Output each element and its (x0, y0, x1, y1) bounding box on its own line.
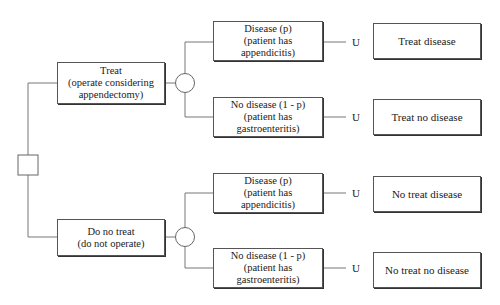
option-sublabel: (do not operate) (77, 238, 144, 250)
branch-sublabel: appendicitis) (241, 47, 295, 59)
trunk-line-top (28, 83, 57, 155)
option-sublabel: appendectomy) (79, 89, 144, 101)
branch-sublabel: appendicitis) (241, 199, 295, 211)
utility-label: U (352, 36, 360, 48)
option-label: Treat (100, 65, 122, 77)
branch-sublabel: (patient has (244, 262, 293, 274)
trunk-line-bottom (28, 175, 57, 237)
branch-sublabel: gastroenteritis) (237, 123, 300, 135)
outcome-label: No treat no disease (385, 264, 469, 276)
branch-no-treat-no-disease: No disease (1 - p) (patient has gastroen… (213, 248, 323, 288)
utility-label: U (352, 262, 360, 274)
outcome-label: No treat disease (392, 188, 462, 200)
branch-label: Disease (p) (244, 23, 292, 35)
branch-no-treat-disease: Disease (p) (patient has appendicitis) (213, 173, 323, 213)
chance-node-no-treat (176, 228, 195, 247)
branch-sublabel: (patient has (244, 35, 293, 47)
branch-treat-disease: Disease (p) (patient has appendicitis) (213, 21, 323, 61)
option-do-no-treat: Do no treat (do not operate) (57, 219, 165, 256)
branch-label: No disease (1 - p) (231, 99, 306, 111)
outcome-no-treat-no-disease: No treat no disease (373, 252, 481, 288)
branch-sublabel: gastroenteritis) (237, 274, 300, 286)
utility-label: U (352, 187, 360, 199)
option-treat: Treat (operate considering appendectomy) (57, 62, 165, 104)
option-label: Do no treat (87, 226, 134, 238)
outcome-treat-no-disease: Treat no disease (373, 99, 481, 135)
branch-treat-no-disease: No disease (1 - p) (patient has gastroen… (213, 97, 323, 137)
utility-label: U (352, 111, 360, 123)
decision-tree-diagram: Treat (operate considering appendectomy)… (0, 0, 500, 305)
branch-label: No disease (1 - p) (231, 250, 306, 262)
outcome-label: Treat no disease (391, 111, 462, 123)
chance-node-treat (176, 74, 195, 93)
decision-node-square (18, 155, 38, 175)
outcome-label: Treat disease (398, 35, 455, 47)
outcome-treat-disease: Treat disease (373, 23, 481, 59)
option-sublabel: (operate considering (68, 77, 154, 89)
outcome-no-treat-disease: No treat disease (373, 176, 481, 212)
branch-label: Disease (p) (244, 175, 292, 187)
branch-sublabel: (patient has (244, 187, 293, 199)
branch-sublabel: (patient has (244, 111, 293, 123)
